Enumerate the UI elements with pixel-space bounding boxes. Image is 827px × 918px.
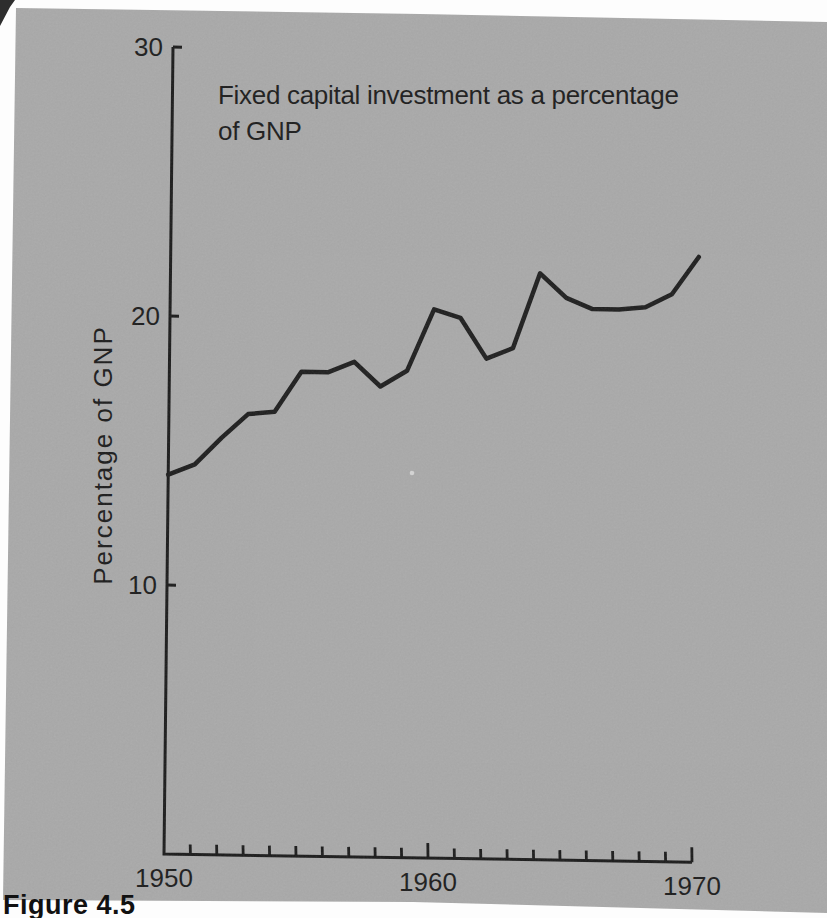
scanned-page: 102030195019601970 Fixed capital investm… xyxy=(0,0,827,918)
figure-caption: Figure 4.5 xyxy=(3,891,136,918)
scan-corner-mark xyxy=(0,0,15,26)
photo-grain-overlay xyxy=(0,0,827,918)
figure-chart: 102030195019601970 Fixed capital investm… xyxy=(0,0,827,918)
